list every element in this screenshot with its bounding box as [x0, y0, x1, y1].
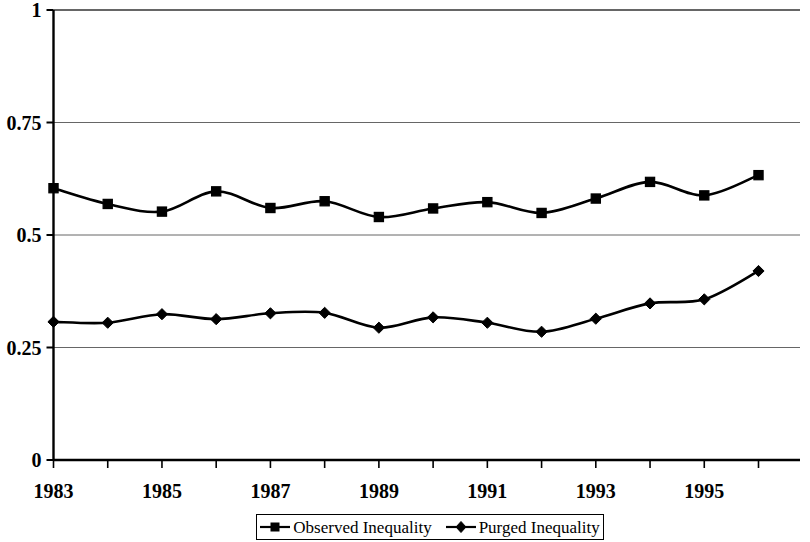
series-observed-inequality: [49, 171, 763, 222]
data-point-square-marker: [103, 199, 112, 208]
data-point-diamond-marker: [644, 298, 655, 309]
x-axis-tick-label: 1991: [467, 480, 507, 503]
data-point-square-marker: [212, 187, 221, 196]
line-chart-plot: [0, 0, 810, 542]
data-point-square-marker: [645, 177, 654, 186]
chart-legend: Observed Inequality Purged Inequality: [256, 514, 604, 540]
y-axis-tick-label: 0.75: [0, 111, 42, 134]
legend-label-purged-inequality: Purged Inequality: [479, 519, 600, 536]
data-point-diamond-marker: [753, 265, 764, 276]
data-point-square-marker: [754, 171, 763, 180]
y-axis-tick-label: 1: [0, 0, 42, 22]
x-axis-tick-label: 1989: [359, 480, 399, 503]
data-point-square-marker: [591, 194, 600, 203]
data-series-group: [48, 171, 764, 338]
data-point-square-marker: [157, 207, 166, 216]
x-axis-ticks: [54, 460, 759, 468]
series-purged-inequality: [48, 265, 764, 337]
x-axis-tick-label: 1983: [34, 480, 74, 503]
data-point-diamond-marker: [373, 322, 384, 333]
legend-item-observed-inequality: Observed Inequality: [260, 519, 431, 536]
data-point-diamond-marker: [699, 294, 710, 305]
data-point-diamond-marker: [102, 317, 113, 328]
legend-square-marker-icon: [260, 520, 290, 534]
x-axis-tick-label: 1995: [684, 480, 724, 503]
chart-container: 10.750.50.250 19831985198719891991199319…: [0, 0, 810, 542]
data-point-diamond-marker: [482, 317, 493, 328]
x-axis-tick-label: 1987: [250, 480, 290, 503]
data-point-square-marker: [483, 198, 492, 207]
data-point-square-marker: [374, 212, 383, 221]
data-point-diamond-marker: [428, 312, 439, 323]
data-point-square-marker: [49, 184, 58, 193]
data-point-square-marker: [700, 191, 709, 200]
y-axis-tick-label: 0: [0, 449, 42, 472]
data-point-square-marker: [429, 204, 438, 213]
x-axis-tick-label: 1993: [576, 480, 616, 503]
legend-label-observed-inequality: Observed Inequality: [293, 519, 431, 536]
data-point-square-marker: [266, 203, 275, 212]
data-point-diamond-marker: [211, 314, 222, 325]
data-point-diamond-marker: [48, 316, 59, 327]
y-axis-tick-label: 0.5: [0, 224, 42, 247]
data-point-diamond-marker: [156, 309, 167, 320]
gridlines: [54, 10, 801, 348]
data-point-diamond-marker: [265, 308, 276, 319]
legend-diamond-marker-icon: [446, 520, 476, 534]
x-axis-tick-label: 1985: [142, 480, 182, 503]
data-point-diamond-marker: [536, 326, 547, 337]
data-point-square-marker: [537, 208, 546, 217]
data-point-square-marker: [320, 197, 329, 206]
legend-item-purged-inequality: Purged Inequality: [446, 519, 600, 536]
data-point-diamond-marker: [319, 307, 330, 318]
data-point-diamond-marker: [590, 313, 601, 324]
y-axis-tick-label: 0.25: [0, 336, 42, 359]
